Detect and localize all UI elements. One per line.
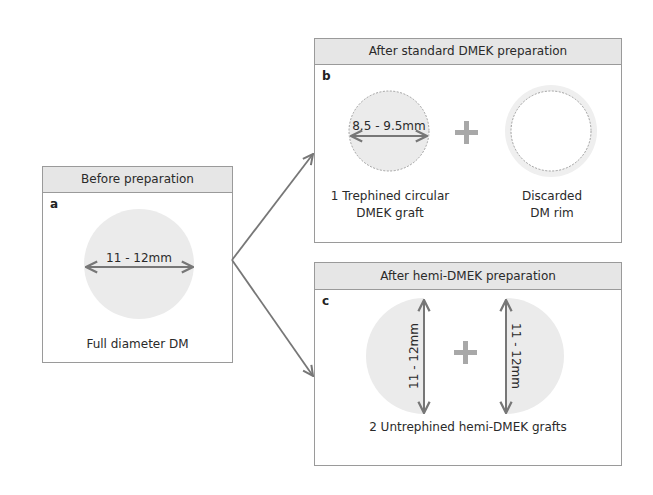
arrow-to-standard-dmek — [232, 154, 313, 260]
dimension-label-c-right: 11 - 12mm — [509, 323, 523, 389]
dimension-label-a: 11 - 12mm — [106, 251, 172, 265]
plus-icon-b — [455, 121, 478, 144]
discarded-rim-ring — [505, 85, 597, 177]
plus-icon-c — [454, 341, 477, 364]
hemi-graft-left: 11 - 12mm — [366, 298, 424, 414]
hemi-graft-right: 11 - 12mm — [506, 298, 564, 414]
dimension-label-b: 8.5 - 9.5mm — [352, 119, 426, 133]
branch-arrows — [232, 154, 313, 376]
trephined-graft-disc: 8.5 - 9.5mm — [349, 91, 429, 171]
dimension-label-c-left: 11 - 12mm — [407, 323, 421, 389]
diagram-graphics: 11 - 12mm 8.5 - 9.5mm 11 - 12mm 11 - 12m… — [0, 0, 653, 495]
arrow-to-hemi-dmek — [232, 260, 313, 376]
full-dm-disc: 11 - 12mm — [84, 209, 194, 319]
